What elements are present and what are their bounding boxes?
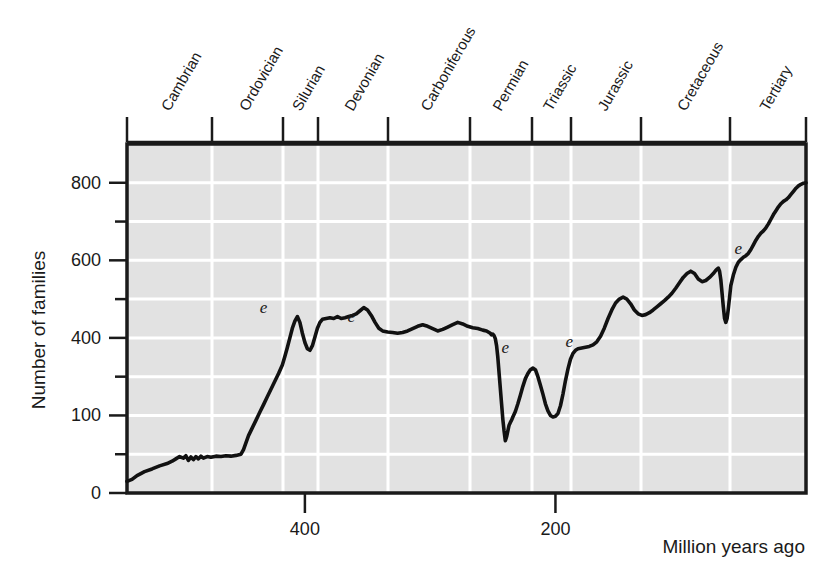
period-name-labels: CambrianOrdovicianSilurianDevonianCarbon… bbox=[157, 23, 795, 113]
x-tick-label: 200 bbox=[540, 519, 570, 539]
y-tick-label: 800 bbox=[71, 173, 101, 193]
extinction-chart-figure: CambrianOrdovicianSilurianDevonianCarbon… bbox=[0, 0, 833, 581]
y-tick-label: 400 bbox=[71, 328, 101, 348]
extinction-marker-end-Cretaceous: e bbox=[735, 239, 743, 258]
extinction-marker-late-Devonian: e bbox=[347, 307, 355, 326]
extinction-marker-end-Permian: e bbox=[502, 338, 510, 357]
y-tick-label: 100 bbox=[71, 405, 101, 425]
period-label-devonian: Devonian bbox=[341, 50, 387, 113]
x-axis-title: Million years ago bbox=[662, 536, 805, 557]
y-tick-label: 600 bbox=[71, 250, 101, 270]
period-label-jurassic: Jurassic bbox=[594, 57, 636, 114]
period-label-tertiary: Tertiary bbox=[756, 62, 796, 114]
y-tick-labels: 0100400600800 bbox=[71, 173, 101, 503]
period-label-ordovician: Ordovician bbox=[235, 43, 286, 114]
y-axis-title: Number of families bbox=[28, 251, 49, 409]
y-axis: 0100400600800 bbox=[71, 173, 127, 503]
plot-background bbox=[127, 144, 806, 493]
x-axis: 400200 bbox=[290, 493, 571, 539]
extinction-marker-end-Ordovician: e bbox=[260, 298, 268, 317]
period-tick-marks bbox=[127, 117, 806, 142]
period-label-cambrian: Cambrian bbox=[157, 49, 204, 114]
x-tick-marks bbox=[305, 493, 556, 513]
geologic-period-axis: CambrianOrdovicianSilurianDevonianCarbon… bbox=[127, 23, 806, 142]
y-tick-marks bbox=[109, 183, 127, 493]
period-label-triassic: Triassic bbox=[539, 60, 580, 113]
period-label-cretaceous: Cretaceous bbox=[673, 39, 726, 114]
period-label-permian: Permian bbox=[489, 57, 532, 114]
x-tick-label: 400 bbox=[290, 519, 320, 539]
chart-canvas: CambrianOrdovicianSilurianDevonianCarbon… bbox=[0, 0, 833, 581]
period-label-carboniferous: Carboniferous bbox=[417, 23, 479, 113]
y-tick-label: 0 bbox=[91, 483, 101, 503]
extinction-marker-end-Triassic: e bbox=[565, 332, 573, 351]
period-label-silurian: Silurian bbox=[288, 62, 328, 114]
x-tick-labels: 400200 bbox=[290, 519, 571, 539]
